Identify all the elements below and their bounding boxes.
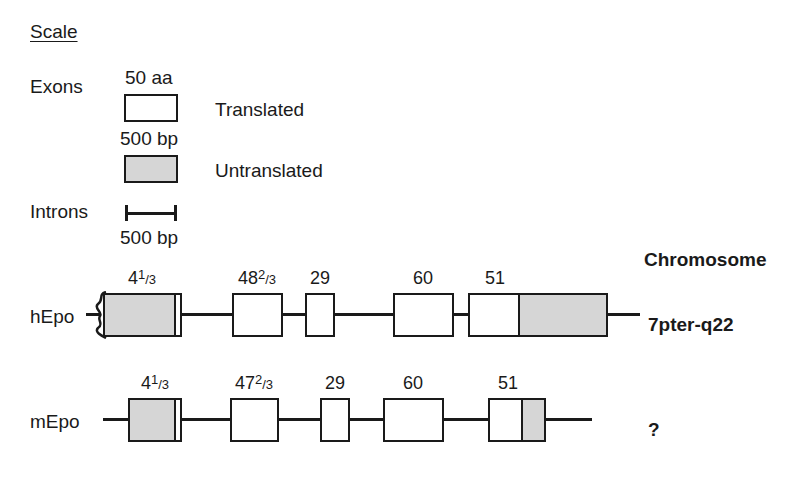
legend-translated-label: Translated (215, 100, 304, 119)
exon-label-fraction-hepo-1: 1/3 (138, 267, 156, 287)
legend-introns-label: Introns (30, 202, 88, 221)
exon-label-mepo-5: 51 (498, 373, 518, 394)
epo-gene-structure-figure: Scale Exons 50 aa Translated 500 bp Untr… (0, 0, 803, 487)
exon-label-hepo-1: 41/3 (128, 268, 156, 289)
intron-hepo-2 (281, 313, 307, 316)
exon-hepo-4 (393, 293, 454, 337)
exon-mepo-2 (230, 398, 279, 442)
exon-hepo-1 (103, 293, 182, 337)
intron-scale-bar-icon (125, 205, 177, 221)
exon-mepo-4 (383, 398, 444, 442)
exon-label-mepo-3: 29 (325, 373, 345, 394)
exon-label-fraction-hepo-2: 2/3 (258, 267, 276, 287)
exon-hepo-2 (232, 293, 283, 337)
gene-track-mepo: mEpo 41/3 472/3 29 60 51 (0, 373, 803, 463)
exon-label-hepo-3: 29 (310, 268, 330, 289)
intron-hepo-1 (182, 313, 234, 316)
gene-track-hepo: hEpo 41/3 482/3 29 60 (0, 268, 803, 358)
intron-mepo-3 (348, 418, 385, 421)
exon-mepo-5-utr (521, 400, 544, 440)
exon-hepo-3 (305, 293, 335, 337)
intron-mepo-4 (442, 418, 490, 421)
scale-title: Scale (30, 22, 78, 41)
flank-mepo-left (103, 418, 130, 421)
exon-label-fraction-mepo-2: 2/3 (255, 372, 273, 392)
exon-label-hepo-5: 51 (485, 268, 505, 289)
intron-mepo-2 (277, 418, 322, 421)
exon-label-mepo-1: 41/3 (141, 373, 169, 394)
exon-hepo-1-utr (105, 295, 176, 335)
exon-hepo-5-utr (518, 295, 606, 335)
gene-label-hepo: hEpo (30, 306, 74, 328)
exon-label-mepo-4: 60 (403, 373, 423, 394)
exon-mepo-5 (488, 398, 546, 442)
exon-mepo-3 (320, 398, 350, 442)
legend-exon-bp-unit: 500 bp (120, 129, 178, 148)
flank-mepo-right (544, 418, 592, 421)
exon-mepo-1 (128, 398, 182, 442)
exon-mepo-1-utr (130, 400, 176, 440)
exon-label-hepo-2: 482/3 (238, 268, 276, 289)
exon-label-mepo-2: 472/3 (235, 373, 273, 394)
flank-hepo-right (606, 313, 640, 316)
legend-exons-label: Exons (30, 77, 83, 96)
legend-intron-bp-unit: 500 bp (120, 228, 178, 247)
chromosome-column-header: Chromosome (644, 250, 766, 269)
exon-hepo-5 (468, 293, 608, 337)
exon-label-fraction-mepo-1: 1/3 (151, 372, 169, 392)
legend-translated-swatch (124, 94, 178, 122)
legend-exon-aa-unit: 50 aa (125, 68, 173, 87)
intron-mepo-1 (182, 418, 232, 421)
legend-untranslated-swatch (124, 155, 178, 183)
intron-hepo-3 (333, 313, 395, 316)
gene-label-mepo: mEpo (30, 411, 80, 433)
legend-untranslated-label: Untranslated (215, 161, 323, 180)
exon-label-hepo-4: 60 (413, 268, 433, 289)
